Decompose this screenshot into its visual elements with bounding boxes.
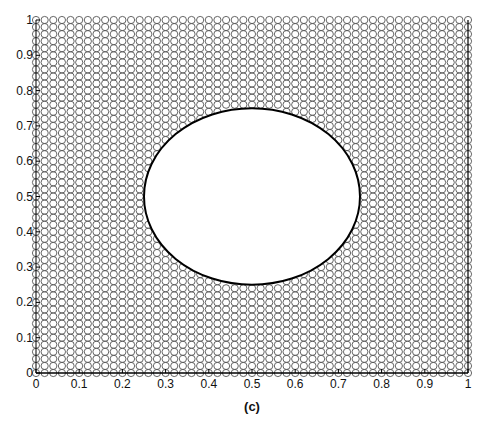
grid-point-marker <box>343 38 350 45</box>
grid-point-marker <box>257 306 264 313</box>
grid-point-marker <box>413 306 420 313</box>
grid-point-marker <box>171 66 178 73</box>
grid-point-marker <box>274 348 281 355</box>
grid-point-marker <box>67 87 74 94</box>
grid-point-marker <box>438 129 445 136</box>
grid-point-marker <box>326 278 333 285</box>
grid-point-marker <box>352 59 359 66</box>
grid-point-marker <box>421 355 428 362</box>
grid-point-marker <box>430 264 437 271</box>
grid-point-marker <box>102 101 109 108</box>
grid-point-marker <box>67 94 74 101</box>
grid-point-marker <box>119 327 126 334</box>
grid-point-marker <box>67 362 74 369</box>
grid-point-marker <box>456 228 463 235</box>
grid-point-marker <box>127 59 134 66</box>
grid-point-marker <box>214 45 221 52</box>
grid-point-marker <box>447 320 454 327</box>
grid-point-marker <box>413 122 420 129</box>
grid-point-marker <box>110 66 117 73</box>
grid-point-marker <box>413 214 420 221</box>
grid-point-marker <box>413 285 420 292</box>
grid-point-marker <box>102 73 109 80</box>
grid-point-marker <box>456 16 463 23</box>
grid-point-marker <box>171 122 178 129</box>
grid-point-marker <box>188 320 195 327</box>
grid-point-marker <box>119 278 126 285</box>
grid-point-marker <box>352 122 359 129</box>
grid-point-marker <box>395 299 402 306</box>
grid-point-marker <box>283 45 290 52</box>
grid-point-marker <box>127 193 134 200</box>
grid-point-marker <box>188 52 195 59</box>
grid-point-marker <box>119 362 126 369</box>
grid-point-marker <box>326 80 333 87</box>
grid-point-marker <box>58 172 65 179</box>
grid-point-marker <box>179 348 186 355</box>
grid-point-marker <box>222 59 229 66</box>
grid-point-marker <box>222 348 229 355</box>
grid-point-marker <box>387 186 394 193</box>
grid-point-marker <box>300 285 307 292</box>
grid-point-marker <box>171 23 178 30</box>
grid-point-marker <box>110 108 117 115</box>
grid-point-marker <box>430 355 437 362</box>
grid-point-marker <box>283 306 290 313</box>
grid-point-marker <box>378 292 385 299</box>
grid-point-marker <box>145 292 152 299</box>
grid-point-marker <box>447 122 454 129</box>
grid-point-marker <box>153 355 160 362</box>
grid-point-marker <box>421 200 428 207</box>
grid-point-marker <box>257 348 264 355</box>
grid-point-marker <box>119 38 126 45</box>
grid-point-marker <box>378 38 385 45</box>
grid-point-marker <box>102 221 109 228</box>
grid-point-marker <box>136 334 143 341</box>
grid-point-marker <box>421 334 428 341</box>
grid-point-marker <box>343 256 350 263</box>
grid-point-marker <box>153 264 160 271</box>
grid-point-marker <box>361 327 368 334</box>
grid-point-marker <box>395 122 402 129</box>
grid-point-marker <box>41 292 48 299</box>
grid-point-marker <box>395 235 402 242</box>
grid-point-marker <box>274 23 281 30</box>
grid-point-marker <box>214 31 221 38</box>
grid-point-marker <box>102 235 109 242</box>
grid-point-marker <box>343 108 350 115</box>
grid-point-marker <box>404 256 411 263</box>
grid-point-marker <box>136 179 143 186</box>
grid-point-marker <box>257 101 264 108</box>
grid-point-marker <box>430 292 437 299</box>
grid-point-marker <box>266 313 273 320</box>
grid-point-marker <box>413 94 420 101</box>
grid-point-marker <box>395 165 402 172</box>
grid-point-marker <box>369 249 376 256</box>
y-tick-label: 1 <box>26 13 33 27</box>
grid-point-marker <box>119 16 126 23</box>
grid-point-marker <box>352 249 359 256</box>
grid-point-marker <box>438 179 445 186</box>
grid-point-marker <box>41 87 48 94</box>
grid-point-marker <box>119 221 126 228</box>
grid-point-marker <box>171 285 178 292</box>
grid-point-marker <box>162 38 169 45</box>
grid-point-marker <box>50 341 57 348</box>
grid-point-marker <box>395 242 402 249</box>
grid-point-marker <box>318 52 325 59</box>
grid-point-marker <box>93 207 100 214</box>
grid-point-marker <box>309 16 316 23</box>
grid-point-marker <box>119 87 126 94</box>
grid-point-marker <box>240 299 247 306</box>
grid-point-marker <box>110 45 117 52</box>
grid-point-marker <box>248 66 255 73</box>
grid-point-marker <box>352 341 359 348</box>
grid-point-marker <box>58 38 65 45</box>
grid-point-marker <box>352 94 359 101</box>
grid-point-marker <box>343 313 350 320</box>
grid-point-marker <box>318 115 325 122</box>
grid-point-marker <box>76 299 83 306</box>
grid-point-marker <box>456 235 463 242</box>
grid-point-marker <box>318 66 325 73</box>
grid-point-marker <box>283 23 290 30</box>
